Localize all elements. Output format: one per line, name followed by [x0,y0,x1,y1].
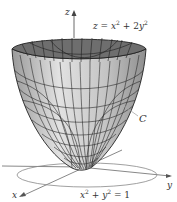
paraboloid-surface [12,38,146,170]
y-axis [80,167,170,176]
eq-equals: = [98,21,111,31]
circle-equation: x2 + y2 = 1 [80,189,130,200]
y-axis-arrow [166,174,172,178]
y-axis-label: y [167,181,172,190]
x-axis-arrow [19,192,26,197]
ceq-rhs: = 1 [111,190,130,200]
surface-equation: z = x2 + 2y2 [93,20,148,31]
curve-label-c: C [139,114,147,124]
x-axis-label: x [12,191,17,200]
z-axis-label: z [65,8,70,17]
paraboloid-figure [0,0,177,202]
eq-y-power: 2 [144,19,148,26]
z-axis-arrow [72,10,77,16]
ceq-plus: + [89,190,102,200]
eq-plus: + 2 [120,21,139,31]
